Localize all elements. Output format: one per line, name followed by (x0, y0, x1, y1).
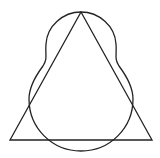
diagram-svg (0, 0, 160, 158)
diagram-canvas: Triangle inscribed with pear-shaped clos… (0, 0, 160, 158)
triangle (10, 12, 152, 140)
pear-curve (29, 12, 133, 151)
